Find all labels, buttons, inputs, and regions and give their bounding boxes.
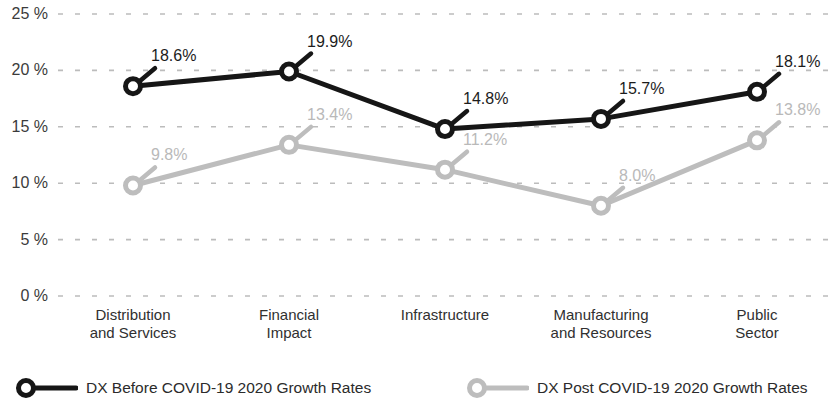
ring-marker-icon <box>12 376 78 400</box>
ring-marker-icon <box>463 376 529 400</box>
x-axis-category-label: Distribution and Services <box>55 306 211 342</box>
data-point-marker[interactable] <box>750 84 765 99</box>
data-point-marker[interactable] <box>438 122 453 137</box>
legend-entry[interactable]: DX Post COVID-19 2020 Growth Rates <box>463 374 808 402</box>
y-axis-tick-label: 0 % <box>0 288 48 304</box>
data-point-marker[interactable] <box>126 178 141 193</box>
plot-svg <box>0 0 840 300</box>
legend-label: DX Before COVID-19 2020 Growth Rates <box>86 380 371 396</box>
data-point-marker[interactable] <box>594 198 609 213</box>
line-chart: 0 %5 %10 %15 %20 %25 % 18.6%19.9%14.8%15… <box>0 0 840 410</box>
data-point-marker[interactable] <box>438 162 453 177</box>
legend-label: DX Post COVID-19 2020 Growth Rates <box>537 380 808 396</box>
y-axis-tick-label: 15 % <box>0 119 48 135</box>
data-value-label: 9.8% <box>151 147 187 163</box>
data-value-label: 19.9% <box>307 34 352 50</box>
y-axis-tick-label: 10 % <box>0 175 48 191</box>
data-point-marker[interactable] <box>750 133 765 148</box>
x-axis-category-label: Infrastructure <box>367 306 523 324</box>
x-axis-category-label: Manufacturing and Resources <box>523 306 679 342</box>
y-axis-tick-label: 25 % <box>0 6 48 22</box>
data-point-marker[interactable] <box>282 64 297 79</box>
data-value-label: 13.8% <box>775 102 820 118</box>
data-value-label: 18.1% <box>775 54 820 70</box>
data-point-marker[interactable] <box>282 137 297 152</box>
x-axis-category-label: Public Sector <box>679 306 835 342</box>
data-point-marker[interactable] <box>594 111 609 126</box>
chart-legend: DX Before COVID-19 2020 Growth RatesDX P… <box>0 372 840 410</box>
data-point-marker[interactable] <box>126 79 141 94</box>
x-axis-category-label: Financial Impact <box>211 306 367 342</box>
data-value-label: 11.2% <box>463 132 507 148</box>
x-axis-category-labels: Distribution and ServicesFinancial Impac… <box>0 306 840 362</box>
legend-entry[interactable]: DX Before COVID-19 2020 Growth Rates <box>12 374 371 402</box>
data-value-label: 13.4% <box>307 107 352 123</box>
data-value-label: 18.6% <box>151 48 196 64</box>
data-value-label: 15.7% <box>619 81 664 97</box>
y-axis-tick-label: 5 % <box>0 232 48 248</box>
y-axis-tick-label: 20 % <box>0 62 48 78</box>
plot-area <box>0 0 840 300</box>
data-value-label: 14.8% <box>463 91 508 107</box>
data-value-label: 8.0% <box>619 168 655 184</box>
